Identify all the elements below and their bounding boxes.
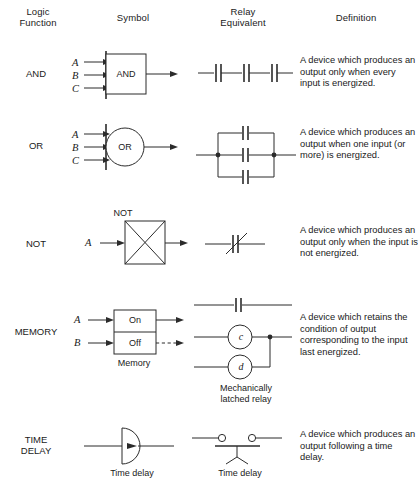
- time-delay-relay-symbol: [190, 425, 290, 465]
- or-relay-parallel-contacts: [196, 125, 296, 185]
- memory-relay-coil-d-label: d: [229, 362, 253, 372]
- memory-relay-caption-line1: Mechanically: [196, 383, 296, 393]
- definition-time-delay: A device which produces an output follow…: [300, 429, 418, 464]
- definition-not: A device which produces an output only w…: [300, 225, 418, 260]
- memory-relay-caption-line2: latched relay: [196, 394, 296, 404]
- row-label-time-delay-line1: TIME: [0, 434, 72, 445]
- definition-and: A device which produces an output only w…: [300, 55, 418, 90]
- row-label-and: AND: [0, 68, 72, 79]
- column-header-relay-equivalent: Relay Equivalent: [188, 6, 298, 28]
- row-label-time-delay: TIME DELAY: [0, 434, 72, 456]
- column-header-logic-function-line1: Logic: [6, 6, 70, 17]
- definition-or: A device which produces an output when o…: [300, 127, 418, 162]
- column-header-logic-function-line2: Function: [6, 17, 70, 28]
- and-relay-series-contacts: [196, 60, 296, 86]
- time-delay-gate-symbol: [82, 425, 182, 465]
- column-header-relay-line2: Equivalent: [188, 17, 298, 28]
- column-header-logic-function: Logic Function: [6, 6, 70, 28]
- not-relay-normally-closed-contact: [203, 230, 275, 258]
- memory-cell-off-label: Off: [114, 338, 156, 348]
- column-header-symbol: Symbol: [78, 12, 188, 23]
- memory-cell-on-label: On: [114, 315, 156, 325]
- not-gate-symbol: [95, 218, 190, 268]
- time-delay-symbol-caption: Time delay: [86, 468, 178, 478]
- time-delay-relay-caption: Time delay: [194, 468, 286, 478]
- row-label-or: OR: [0, 140, 72, 151]
- row-label-time-delay-line2: DELAY: [0, 445, 72, 456]
- row-label-memory: MEMORY: [0, 326, 72, 337]
- memory-symbol-caption: Memory: [94, 358, 174, 368]
- definition-memory: A device which retains the condition of …: [300, 312, 418, 358]
- memory-relay-coil-c-label: c: [229, 332, 253, 342]
- or-gate-label: OR: [105, 142, 145, 152]
- row-label-not: NOT: [0, 238, 72, 249]
- logic-function-reference-table: Logic Function Symbol Relay Equivalent D…: [0, 0, 418, 490]
- and-gate-label: AND: [106, 69, 146, 79]
- not-gate-label: NOT: [100, 208, 146, 218]
- column-header-relay-line1: Relay: [188, 6, 298, 17]
- not-input-label-a: A: [85, 237, 91, 248]
- column-header-definition: Definition: [298, 12, 414, 23]
